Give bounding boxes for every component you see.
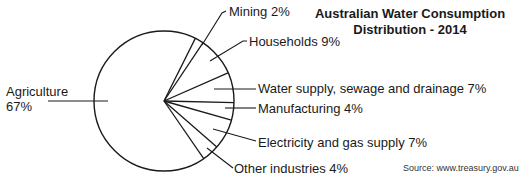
label-electricity: Electricity and gas supply 7% bbox=[258, 135, 427, 150]
label-water-supply: Water supply, sewage and drainage 7% bbox=[258, 81, 486, 96]
leader-households bbox=[210, 41, 247, 61]
label-other-industries: Other industries 4% bbox=[234, 161, 348, 176]
chart-source: Source: www.treasury.gov.au bbox=[403, 163, 519, 173]
leader-mining bbox=[202, 11, 226, 45]
label-mining: Mining 2% bbox=[229, 4, 290, 19]
label-agriculture: Agriculture 67% bbox=[6, 84, 68, 114]
chart-title: Australian Water Consumption Distributio… bbox=[305, 6, 515, 38]
leader-other-industries bbox=[207, 148, 233, 168]
label-manufacturing: Manufacturing 4% bbox=[258, 101, 363, 116]
